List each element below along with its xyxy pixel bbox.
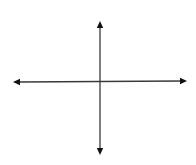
coordinate-axes-diagram (0, 0, 196, 165)
